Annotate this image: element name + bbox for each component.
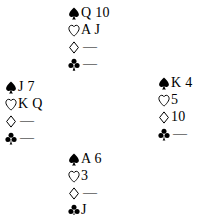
spade-icon: [158, 76, 171, 90]
hand-south-clubs-ranks: J: [81, 201, 87, 215]
hand-east-clubs-row: —: [158, 125, 193, 142]
hand-north: Q 10 A J —: [68, 4, 110, 72]
heart-icon: [158, 93, 171, 107]
heart-icon: [5, 97, 18, 111]
hand-north-spades-row: Q 10: [68, 4, 110, 21]
diamond-icon: [158, 110, 171, 124]
hand-south-spades-row: A 6: [68, 150, 102, 167]
hand-east-spades-row: K 4: [158, 74, 193, 91]
bridge-hand-diagram: Q 10 A J —: [0, 0, 198, 215]
hand-north-diamonds-row: —: [68, 38, 110, 55]
club-icon: [68, 57, 81, 71]
hand-east-diamonds-row: 10: [158, 108, 193, 125]
hand-north-diamonds-ranks: —: [83, 38, 97, 55]
hand-south-diamonds-row: —: [68, 184, 102, 201]
hand-west-clubs-row: —: [5, 129, 43, 146]
spade-icon: [68, 6, 81, 20]
heart-icon: [68, 169, 81, 183]
club-icon: [68, 203, 81, 216]
hand-west-spades-row: J 7: [5, 78, 43, 95]
hand-west: J 7 K Q —: [5, 78, 43, 146]
hand-south-clubs-row: J: [68, 201, 102, 215]
hand-south-hearts-row: 3: [68, 167, 102, 184]
hand-south-spades-ranks: A 6: [81, 150, 102, 167]
hand-south: A 6 3 —: [68, 150, 102, 215]
hand-east: K 4 5 10: [158, 74, 193, 142]
club-icon: [5, 131, 18, 145]
hand-north-hearts-row: A J: [68, 21, 110, 38]
heart-icon: [68, 23, 81, 37]
hand-west-hearts-ranks: K Q: [18, 95, 43, 112]
hand-north-hearts-ranks: A J: [81, 21, 100, 38]
hand-east-spades-ranks: K 4: [171, 74, 193, 91]
diamond-icon: [68, 40, 81, 54]
diamond-icon: [68, 186, 81, 200]
club-icon: [158, 127, 171, 141]
hand-east-clubs-ranks: —: [173, 125, 187, 142]
hand-west-hearts-row: K Q: [5, 95, 43, 112]
hand-south-hearts-ranks: 3: [81, 167, 88, 184]
hand-east-hearts-ranks: 5: [171, 91, 178, 108]
hand-south-diamonds-ranks: —: [83, 184, 97, 201]
spade-icon: [5, 80, 18, 94]
diamond-icon: [5, 114, 18, 128]
hand-north-clubs-ranks: —: [83, 55, 97, 72]
hand-west-diamonds-row: —: [5, 112, 43, 129]
hand-east-hearts-row: 5: [158, 91, 193, 108]
hand-north-spades-ranks: Q 10: [81, 4, 110, 21]
hand-north-clubs-row: —: [68, 55, 110, 72]
hand-west-spades-ranks: J 7: [18, 78, 35, 95]
spade-icon: [68, 152, 81, 166]
hand-east-diamonds-ranks: 10: [171, 108, 186, 125]
hand-west-clubs-ranks: —: [20, 129, 34, 146]
hand-west-diamonds-ranks: —: [20, 112, 34, 129]
